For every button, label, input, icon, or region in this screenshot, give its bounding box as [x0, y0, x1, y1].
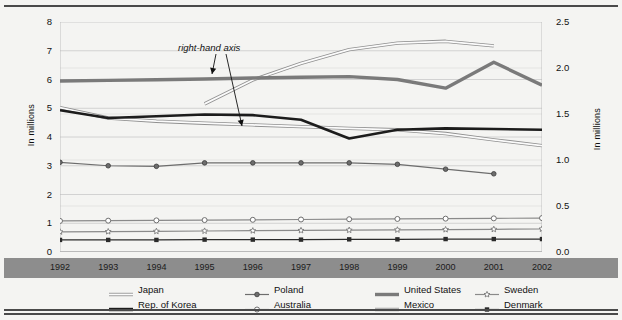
right-tick-1.5: 1.5	[556, 108, 586, 119]
plot-area	[60, 22, 542, 252]
right-tick-2.5: 2.5	[556, 16, 586, 27]
left-tick-6: 6	[26, 74, 52, 85]
legend-label: Sweden	[504, 284, 538, 295]
year-label-1996: 1996	[231, 262, 275, 272]
year-label-1994: 1994	[134, 262, 178, 272]
series-rep-of-korea	[60, 110, 542, 138]
year-label-2001: 2001	[472, 262, 516, 272]
bottom-rule	[4, 313, 618, 315]
series-canvas	[60, 22, 542, 252]
top-rule	[4, 5, 618, 7]
left-tick-8: 8	[26, 16, 52, 27]
series-sweden	[60, 226, 542, 234]
left-tick-2: 2	[26, 189, 52, 200]
left-tick-1: 1	[26, 217, 52, 228]
left-tick-5: 5	[26, 102, 52, 113]
left-tick-3: 3	[26, 160, 52, 171]
right-tick-0.5: 0.5	[556, 200, 586, 211]
legend-label: Japan	[138, 284, 164, 295]
legend-label: Poland	[274, 284, 304, 295]
year-label-1992: 1992	[38, 262, 82, 272]
right-tick-2.0: 2.0	[556, 62, 586, 73]
year-label-1998: 1998	[327, 262, 371, 272]
left-tick-7: 7	[26, 45, 52, 56]
legend-swatch-icon	[108, 290, 134, 297]
series-denmark	[60, 237, 542, 242]
year-label-1999: 1999	[375, 262, 419, 272]
legend-label: United States	[404, 284, 461, 295]
year-label-1995: 1995	[183, 262, 227, 272]
series-poland	[60, 160, 496, 176]
year-label-1993: 1993	[86, 262, 130, 272]
left-tick-4: 4	[26, 131, 52, 142]
right-axis-title: In millions	[592, 108, 602, 150]
legend-divider	[4, 309, 618, 311]
legend-swatch-icon	[474, 290, 500, 297]
series-mexico	[60, 108, 542, 146]
year-label-2000: 2000	[424, 262, 468, 272]
series-united-states	[60, 62, 542, 88]
series-australia	[60, 216, 542, 224]
chart-legend: JapanRep. of KoreaPolandAustraliaUnited …	[4, 283, 618, 309]
year-label-2002: 2002	[520, 262, 564, 272]
right-tick-0.0: 0.0	[556, 246, 586, 257]
chart-page: In millions In millions 876543210 2.52.0…	[0, 0, 622, 320]
legend-swatch-icon	[244, 290, 270, 297]
right-hand-axis-annotation: right-hand axis	[178, 42, 240, 53]
legend-swatch-icon	[374, 290, 400, 297]
left-tick-0: 0	[26, 246, 52, 257]
year-label-1997: 1997	[279, 262, 323, 272]
right-tick-1.0: 1.0	[556, 154, 586, 165]
